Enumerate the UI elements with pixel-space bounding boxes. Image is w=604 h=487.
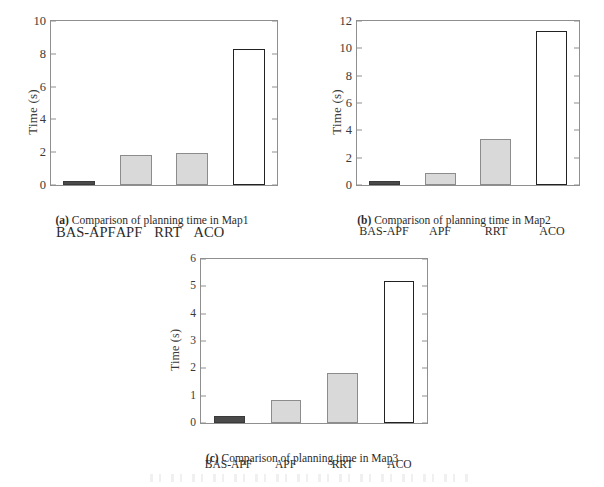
y-tick-label: 1 <box>190 390 196 402</box>
y-tick-mark <box>272 53 277 54</box>
y-tick-mark <box>422 368 427 369</box>
bar-slot <box>371 259 428 423</box>
plot-frame-c: 0123456 <box>200 258 428 424</box>
y-tick-label: 12 <box>340 15 353 28</box>
y-tick-label: 0 <box>40 179 46 192</box>
y-tick-mark <box>51 119 56 120</box>
y-tick-mark <box>422 341 427 342</box>
bar-slot <box>108 21 165 185</box>
y-tick-mark <box>51 21 56 22</box>
chart-panel-a: Time (s) 0246810 BAS-APFAPFRRTACO (a) Co… <box>8 14 296 246</box>
y-tick-label: 3 <box>190 335 196 347</box>
y-tick-mark <box>201 286 206 287</box>
y-tick-label: 6 <box>346 97 352 110</box>
x-tick-label: APF <box>412 224 468 239</box>
bar-apf <box>120 155 152 185</box>
y-tick-mark <box>422 286 427 287</box>
y-tick-mark <box>357 157 362 158</box>
bar-slot <box>314 259 371 423</box>
y-tick-mark <box>357 103 362 104</box>
y-tick-mark <box>51 86 56 87</box>
scan-artifact <box>150 474 470 482</box>
bar-bas-apf <box>214 416 245 423</box>
y-tick-mark <box>272 119 277 120</box>
y-tick-label: 8 <box>40 48 46 61</box>
panel-caption-a: (a) Comparison of planning time in Map1 <box>8 214 296 226</box>
y-tick-mark <box>272 21 277 22</box>
x-tick-label: APF <box>116 224 143 241</box>
y-tick-label: 8 <box>346 69 352 82</box>
y-tick-mark <box>201 368 206 369</box>
y-axis-title-c: Time (s) <box>168 329 183 371</box>
caption-tag: (a) <box>56 214 69 226</box>
y-tick-mark <box>357 185 362 186</box>
y-tick-label: 2 <box>346 151 352 164</box>
x-tick-label: ACO <box>194 224 225 241</box>
y-tick-mark <box>422 395 427 396</box>
bar-bas-apf <box>63 181 95 185</box>
caption-text: Comparison of planning time in Map2 <box>371 214 551 226</box>
plot-area-c: Time (s) 0123456 <box>152 252 452 448</box>
bar-aco <box>384 281 415 423</box>
panel-caption-b: (b) Comparison of planning time in Map2 <box>312 214 596 226</box>
bar-apf <box>425 173 456 185</box>
y-tick-label: 10 <box>340 42 353 55</box>
bar-group-c <box>201 259 427 423</box>
bar-aco <box>536 31 567 185</box>
y-tick-label: 2 <box>40 146 46 159</box>
chart-panel-b: Time (s) 024681012 BAS-APF APF RRT ACO (… <box>312 14 596 246</box>
bar-slot <box>413 21 469 185</box>
bar-slot <box>258 259 315 423</box>
y-tick-label: 6 <box>190 253 196 265</box>
y-tick-label: 0 <box>346 179 352 192</box>
y-tick-mark <box>422 259 427 260</box>
y-tick-mark <box>272 86 277 87</box>
y-tick-label: 5 <box>190 281 196 293</box>
bar-rrt <box>327 373 358 423</box>
plot-frame-a: 0246810 <box>50 20 278 186</box>
y-tick-mark <box>357 48 362 49</box>
chart-panel-c: Time (s) 0123456 BAS-APF APF RRT ACO (c)… <box>152 252 452 480</box>
y-tick-label: 4 <box>346 124 352 137</box>
caption-text: Comparison of planning time in Map3 <box>219 452 399 464</box>
y-tick-mark <box>51 185 56 186</box>
y-tick-mark <box>272 152 277 153</box>
y-tick-mark <box>357 75 362 76</box>
bar-apf <box>271 400 302 423</box>
x-tick-label: ACO <box>524 224 580 239</box>
y-tick-label: 10 <box>34 15 47 28</box>
bar-bas-apf <box>369 181 400 185</box>
y-tick-label: 4 <box>190 308 196 320</box>
y-tick-mark <box>357 21 362 22</box>
y-tick-mark <box>422 313 427 314</box>
plot-area-a: Time (s) 0246810 <box>8 14 296 210</box>
y-tick-mark <box>201 423 206 424</box>
bar-slot <box>201 259 258 423</box>
y-tick-mark <box>357 130 362 131</box>
bar-slot <box>357 21 413 185</box>
y-tick-mark <box>201 341 206 342</box>
x-axis-labels-b: BAS-APF APF RRT ACO <box>356 224 580 246</box>
y-axis-title-b: Time (s) <box>329 89 345 135</box>
y-tick-mark <box>574 185 579 186</box>
y-tick-mark <box>574 103 579 104</box>
y-tick-label: 6 <box>40 80 46 93</box>
y-tick-mark <box>574 21 579 22</box>
x-tick-label: RRT <box>468 224 524 239</box>
y-tick-mark <box>51 53 56 54</box>
bar-slot <box>524 21 580 185</box>
panel-caption-c: (c) Comparison of planning time in Map3 <box>152 452 452 464</box>
y-tick-mark <box>272 185 277 186</box>
bar-slot <box>51 21 108 185</box>
bar-rrt <box>480 139 511 185</box>
y-tick-mark <box>201 259 206 260</box>
x-tick-label: BAS-APF <box>56 224 116 241</box>
y-tick-label: 0 <box>190 417 196 429</box>
bar-slot <box>164 21 221 185</box>
bar-rrt <box>176 153 208 185</box>
x-tick-label: RRT <box>154 224 181 241</box>
bar-slot <box>468 21 524 185</box>
y-tick-label: 2 <box>190 363 196 375</box>
bar-aco <box>233 49 265 185</box>
y-tick-mark <box>574 75 579 76</box>
